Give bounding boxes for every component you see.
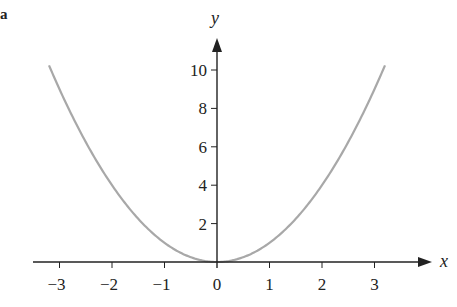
x-tick-label: 0 [213,275,222,294]
x-tick-label: 1 [265,275,274,294]
x-tick-label: −1 [152,275,170,294]
x-tick-label: 3 [370,275,379,294]
x-axis-arrow-icon [418,257,432,267]
y-tick-label: 4 [199,176,208,195]
axes-layer: xy−3−2−10123246810 [33,8,448,294]
y-tick-label: 10 [190,61,207,80]
y-axis-label: y [209,8,219,28]
parabola-chart: xy−3−2−10123246810 [0,0,457,307]
y-tick-label: 2 [199,215,208,234]
x-tick-label: 2 [318,275,327,294]
x-axis-label: x [439,251,448,271]
x-tick-label: −3 [47,275,65,294]
y-axis-arrow-icon [212,38,222,52]
y-tick-label: 6 [199,138,208,157]
y-tick-label: 8 [199,99,208,118]
x-tick-label: −2 [100,275,118,294]
